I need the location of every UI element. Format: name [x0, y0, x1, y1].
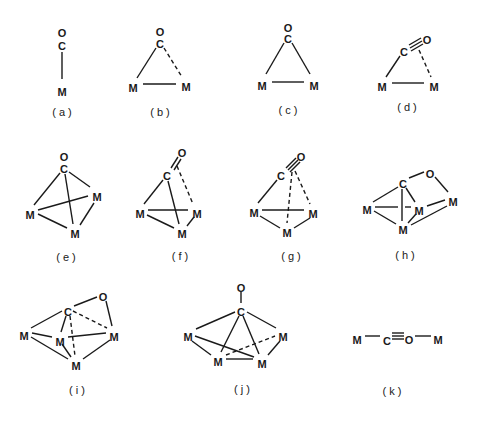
atom-o: O — [405, 334, 414, 346]
bond-line — [411, 44, 423, 51]
atom-m: M — [71, 360, 80, 372]
dashed-bond — [73, 311, 107, 328]
atom-c: C — [156, 38, 164, 50]
atom-o: O — [60, 151, 69, 163]
structure-label: ( k ) — [383, 385, 402, 397]
atom-m: M — [25, 209, 34, 221]
atom-m: M — [414, 205, 423, 217]
atom-m: M — [70, 228, 79, 240]
atom-m: M — [308, 208, 317, 220]
bond-line — [68, 333, 106, 337]
structure-e: OCMMM( e ) — [25, 151, 101, 263]
bond-line — [106, 301, 112, 326]
atom-m: M — [177, 228, 186, 240]
dashed-bond — [226, 336, 275, 355]
atom-m: M — [128, 82, 137, 94]
structure-b: OCMM( b ) — [128, 26, 190, 118]
bond-line — [373, 187, 398, 202]
structure-i: COMMMM( i ) — [19, 291, 118, 396]
atom-c: C — [277, 170, 285, 182]
bond-line — [292, 43, 310, 74]
bond-line — [260, 216, 280, 228]
bond-line — [386, 56, 400, 77]
atom-o: O — [423, 34, 432, 46]
bond-line — [266, 43, 284, 74]
structure-label: ( f ) — [172, 250, 189, 262]
atom-m: M — [57, 86, 66, 98]
structure-label: ( j ) — [234, 383, 250, 395]
atom-c: C — [58, 40, 66, 52]
bond-line — [38, 196, 88, 210]
bond-line — [32, 333, 52, 337]
structure-f: OCMMM( f ) — [135, 147, 201, 262]
dashed-bond — [419, 50, 431, 77]
bond-line — [195, 336, 254, 357]
bond-line — [80, 203, 94, 225]
bond-line — [435, 177, 448, 192]
dashed-bond — [287, 172, 292, 223]
structures-svg: OCM( a )OCMM( b )OCMM( c )COMM( d )OCMMM… — [0, 0, 483, 421]
structure-c: OCMM( c ) — [257, 22, 318, 116]
atom-c: C — [399, 178, 407, 190]
structure-label: ( i ) — [69, 384, 85, 396]
atom-m: M — [309, 80, 318, 92]
structure-label: ( e ) — [56, 251, 76, 263]
atom-m: M — [398, 224, 407, 236]
structure-a: OCM( a ) — [52, 27, 72, 118]
structure-g: OCMMM( g ) — [249, 151, 317, 262]
atom-c: C — [383, 335, 391, 347]
atom-m: M — [192, 208, 201, 220]
atom-m: M — [433, 334, 442, 346]
atom-m: M — [109, 331, 118, 343]
bond-line — [410, 41, 422, 48]
bond-line — [168, 181, 179, 224]
atom-m: M — [213, 356, 222, 368]
structure-j: OCMMMM( j ) — [183, 282, 287, 395]
bond-line — [268, 341, 280, 355]
carbonyl-bonding-modes-figure: OCM( a )OCMM( b )OCMM( c )COMM( d )OCMMM… — [0, 0, 483, 421]
atom-c: C — [60, 163, 68, 175]
atom-m: M — [429, 81, 438, 93]
structure-k: MCOM( k ) — [352, 333, 442, 397]
atom-m: M — [448, 196, 457, 208]
atom-o: O — [156, 26, 165, 38]
bond-line — [374, 211, 396, 224]
atom-m: M — [278, 331, 287, 343]
bond-line — [406, 188, 415, 202]
structure-label: ( g ) — [281, 250, 301, 262]
bond-line — [247, 312, 276, 328]
structure-label: ( h ) — [395, 249, 415, 261]
bond-line — [409, 38, 421, 45]
bond-line — [192, 341, 211, 355]
bond-line — [65, 174, 73, 224]
atom-m: M — [282, 227, 291, 239]
atom-m: M — [257, 358, 266, 370]
atom-m: M — [352, 334, 361, 346]
bond-line — [38, 214, 67, 228]
bond-line — [196, 312, 235, 329]
atom-c: C — [400, 46, 408, 58]
atom-m: M — [19, 330, 28, 342]
structure-label: ( b ) — [150, 106, 170, 118]
bond-line — [409, 172, 424, 178]
atom-c: C — [237, 306, 245, 318]
structure-label: ( a ) — [52, 106, 72, 118]
atom-o: O — [426, 168, 435, 180]
bond-line — [74, 297, 97, 306]
atom-m: M — [362, 204, 371, 216]
atom-o: O — [237, 282, 246, 294]
atom-m: M — [181, 81, 190, 93]
dashed-bond — [295, 171, 310, 204]
atom-o: O — [178, 147, 187, 159]
dashed-bond — [164, 48, 182, 77]
bond-line — [83, 340, 110, 359]
bond-line — [137, 48, 156, 78]
bond-line — [61, 316, 66, 332]
atom-m: M — [92, 191, 101, 203]
dashed-bond — [177, 166, 193, 204]
atom-m: M — [257, 80, 266, 92]
bond-line — [144, 180, 163, 204]
atom-c: C — [163, 170, 171, 182]
bond-line — [147, 215, 174, 228]
bond-line — [34, 173, 60, 205]
